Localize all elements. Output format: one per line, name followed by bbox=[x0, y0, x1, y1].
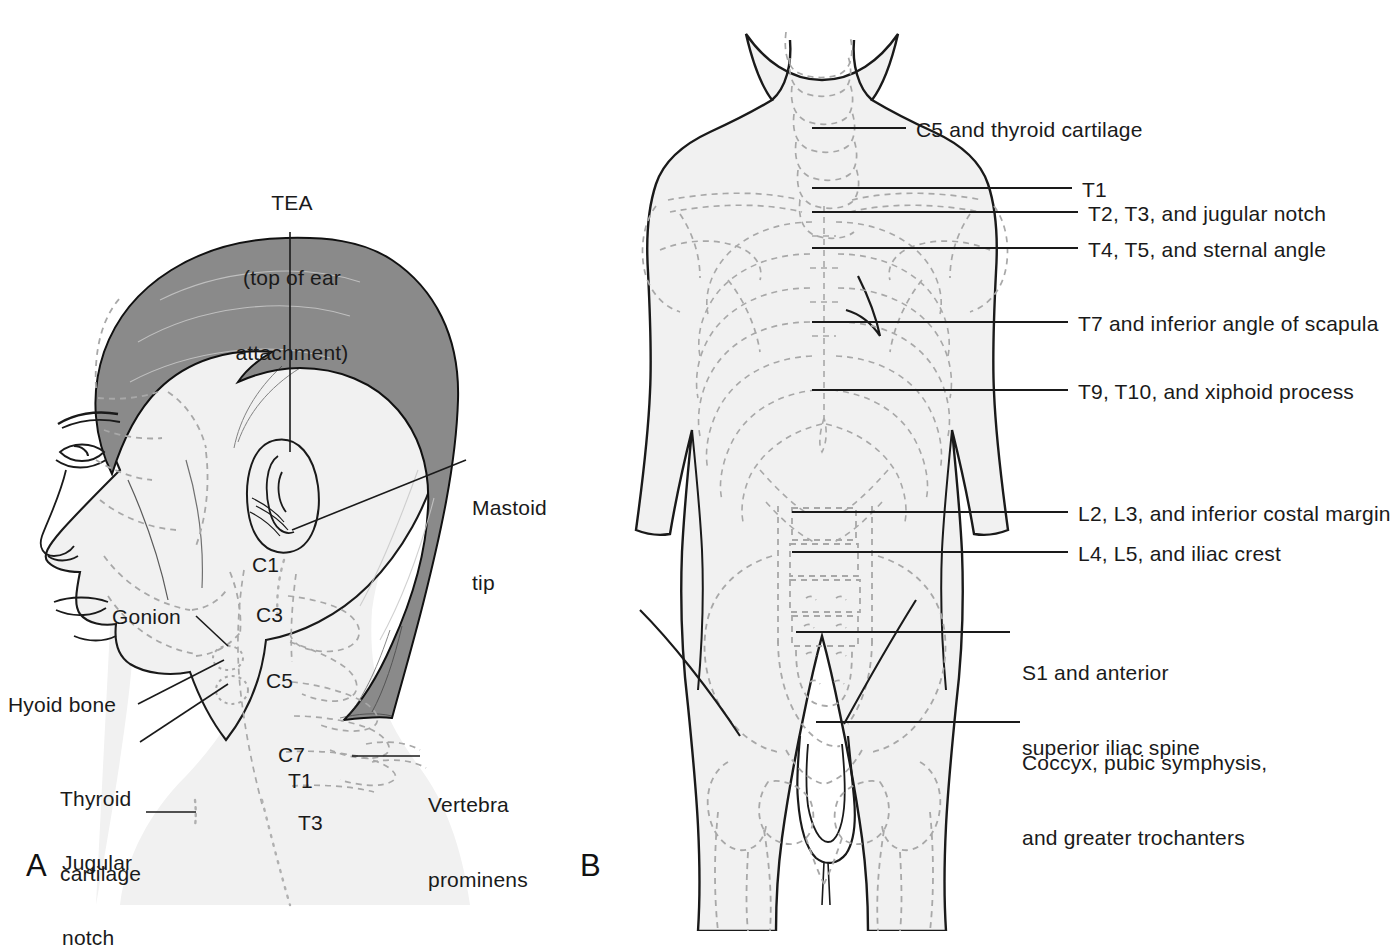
label-l4-l5-iliac-crest: L4, L5, and iliac crest bbox=[1078, 541, 1281, 566]
label-c5-thyroid-cartilage: C5 and thyroid cartilage bbox=[916, 117, 1143, 142]
label-level-c7: C7 bbox=[278, 742, 305, 767]
label-t2-t3-jugular-notch: T2, T3, and jugular notch bbox=[1088, 201, 1326, 226]
panel-letter-b: B bbox=[580, 848, 601, 884]
label-coccyx-line1: Coccyx, pubic symphysis, bbox=[1022, 750, 1267, 775]
label-vertebra-prominens-line1: Vertebra bbox=[428, 792, 528, 817]
label-vertebra-prominens: Vertebra prominens bbox=[428, 742, 528, 942]
label-l2-l3-inferior-costal-margin: L2, L3, and inferior costal margin bbox=[1078, 501, 1391, 526]
label-hyoid-bone: Hyoid bone bbox=[8, 692, 116, 717]
label-coccyx-pubic-symphysis-trochanters: Coccyx, pubic symphysis, and greater tro… bbox=[1022, 700, 1267, 900]
label-jugular-notch-line1: Jugular bbox=[62, 850, 132, 875]
label-jugular-notch-line2: notch bbox=[62, 925, 132, 949]
label-level-t3: T3 bbox=[298, 810, 323, 835]
label-gonion: Gonion bbox=[112, 604, 181, 629]
label-mastoid-tip-line2: tip bbox=[472, 570, 547, 595]
label-level-c5: C5 bbox=[266, 668, 293, 693]
label-t7-inferior-angle-scapula: T7 and inferior angle of scapula bbox=[1078, 311, 1379, 336]
label-mastoid-tip-line1: Mastoid bbox=[472, 495, 547, 520]
label-tea: TEA (top of ear attachment) bbox=[212, 140, 372, 415]
label-level-t1: T1 bbox=[288, 768, 313, 793]
label-t1: T1 bbox=[1082, 177, 1107, 202]
label-level-c1: C1 bbox=[252, 552, 279, 577]
panel-letter-a: A bbox=[26, 848, 47, 884]
label-level-c3: C3 bbox=[256, 602, 283, 627]
label-s1-line1: S1 and anterior bbox=[1022, 660, 1200, 685]
label-mastoid-tip: Mastoid tip bbox=[472, 445, 547, 645]
label-tea-line1: TEA bbox=[212, 190, 372, 215]
panel-b-body-silhouette bbox=[636, 34, 1008, 931]
label-tea-line2: (top of ear bbox=[212, 265, 372, 290]
label-jugular-notch: Jugular notch bbox=[62, 800, 132, 949]
label-vertebra-prominens-line2: prominens bbox=[428, 867, 528, 892]
label-t4-t5-sternal-angle: T4, T5, and sternal angle bbox=[1088, 237, 1326, 262]
label-coccyx-line2: and greater trochanters bbox=[1022, 825, 1267, 850]
label-tea-line3: attachment) bbox=[212, 340, 372, 365]
label-t9-t10-xiphoid-process: T9, T10, and xiphoid process bbox=[1078, 379, 1354, 404]
